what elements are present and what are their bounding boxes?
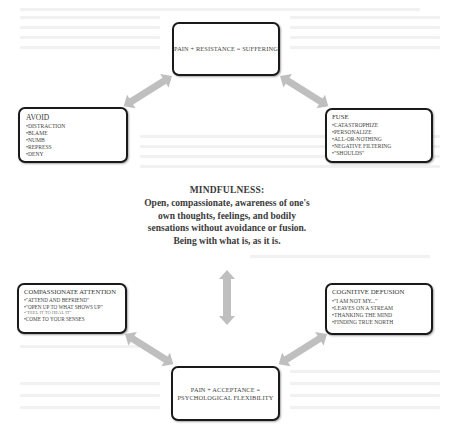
double-arrow-icon	[276, 69, 333, 113]
list-item: REPRESS	[26, 144, 120, 151]
list-item: BLAME	[26, 130, 120, 137]
pain-resistance-suffering-box: PAIN + RESISTANCE = SUFFERING	[172, 22, 280, 76]
fuse-list: CATASTROPHIZE PERSONALIZE ALL-OR-NOTHING…	[332, 122, 426, 157]
avoid-list: DISTRACTION BLAME NUMB REPRESS DENY	[26, 123, 120, 158]
list-item: PERSONALIZE	[332, 129, 426, 136]
mindfulness-line: Open, compassionate, awareness of one's	[117, 197, 337, 210]
defusion-list: "I AM NOT MY..." LEAVES ON A STREAM THAN…	[332, 298, 426, 326]
compassionate-list: "ATTEND AND BEFRIEND" "OPEN UP TO WHAT S…	[24, 297, 120, 323]
mindfulness-heading: MINDFULNESS:	[117, 184, 337, 197]
cognitive-defusion-box: COGNITIVE DEFUSION "I AM NOT MY..." LEAV…	[325, 283, 433, 335]
list-item: DENY	[26, 151, 120, 158]
top-box-label: PAIN + RESISTANCE = SUFFERING	[174, 45, 278, 53]
double-arrow-icon	[119, 69, 176, 113]
fuse-title: FUSE	[332, 113, 426, 121]
mindfulness-line: own thoughts, feelings, and bodily	[117, 210, 337, 223]
double-arrow-icon	[121, 327, 178, 371]
fuse-box: FUSE CATASTROPHIZE PERSONALIZE ALL-OR-NO…	[325, 108, 433, 163]
compassionate-title: COMPASSIONATE ATTENTION	[24, 288, 120, 296]
bottom-box-line1: PAIN + ACCEPTANCE =	[191, 386, 260, 394]
compassionate-attention-box: COMPASSIONATE ATTENTION "ATTEND AND BEFR…	[17, 283, 127, 334]
list-item: THANKING THE MIND	[332, 312, 426, 319]
list-item: NEGATIVE FILTERING	[332, 143, 426, 150]
mindfulness-line: sensations without avoidance or fusion.	[117, 222, 337, 235]
list-item: COME TO YOUR SENSES	[24, 316, 120, 323]
pain-acceptance-flexibility-box: PAIN + ACCEPTANCE = PSYCHOLOGICAL FLEXIB…	[171, 366, 280, 421]
list-item: NUMB	[26, 137, 120, 144]
list-item: "SHOULDS"	[332, 150, 426, 157]
avoid-box: AVOID DISTRACTION BLAME NUMB REPRESS DEN…	[18, 107, 128, 163]
mindfulness-definition: MINDFULNESS: Open, compassionate, awaren…	[117, 184, 337, 247]
double-arrow-icon	[274, 327, 331, 371]
list-item: LEAVES ON A STREAM	[332, 305, 426, 312]
list-item: "I AM NOT MY..."	[332, 298, 426, 305]
mindfulness-line: Being with what is, as it is.	[117, 235, 337, 248]
list-item: FINDING TRUE NORTH	[332, 319, 426, 326]
list-item: ALL-OR-NOTHING	[332, 136, 426, 143]
vertical-double-arrow-icon	[219, 270, 235, 325]
avoid-title: AVOID	[26, 113, 120, 122]
defusion-title: COGNITIVE DEFUSION	[332, 288, 426, 297]
list-item: DISTRACTION	[26, 123, 120, 130]
list-item: CATASTROPHIZE	[332, 122, 426, 129]
bottom-box-line2: PSYCHOLOGICAL FLEXIBILITY	[177, 394, 273, 402]
